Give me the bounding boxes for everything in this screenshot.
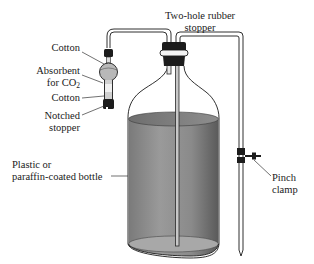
label-line: Notched — [20, 110, 80, 122]
pinch-clamp — [237, 148, 261, 163]
label-line: for CO2 — [10, 77, 80, 89]
label-line: clamp — [272, 184, 298, 196]
label-text: for CO — [47, 77, 76, 88]
two-hole-rubber-stopper — [160, 42, 188, 66]
label-bottle: Plastic or paraffin-coated bottle — [12, 159, 102, 183]
label-line: Plastic or — [12, 159, 102, 171]
label-line: stopper — [20, 122, 80, 134]
label-pinch-clamp: Pinch clamp — [272, 172, 298, 196]
label-subscript: 2 — [76, 81, 80, 90]
notched-stopper — [103, 99, 114, 109]
label-line: stopper — [140, 22, 260, 34]
cotton-plug-top — [104, 49, 113, 57]
label-absorbent: Absorbent for CO2 — [10, 65, 80, 89]
liquid — [129, 112, 219, 256]
label-line: Pinch — [272, 172, 298, 184]
label-notched-stopper: Notched stopper — [20, 110, 80, 134]
label-line: Cotton — [51, 42, 80, 53]
label-line: Absorbent — [10, 65, 80, 77]
label-line: paraffin-coated bottle — [12, 171, 102, 183]
label-line: Cotton — [51, 92, 80, 103]
label-cotton-top: Cotton — [20, 42, 80, 54]
label-two-hole-rubber-stopper: Two-hole rubber stopper — [140, 10, 260, 34]
label-line: Two-hole rubber — [140, 10, 260, 22]
label-cotton-bottom: Cotton — [20, 92, 80, 104]
co2-absorbent-tube — [100, 49, 118, 110]
cotton-plug-bottom — [105, 84, 112, 92]
